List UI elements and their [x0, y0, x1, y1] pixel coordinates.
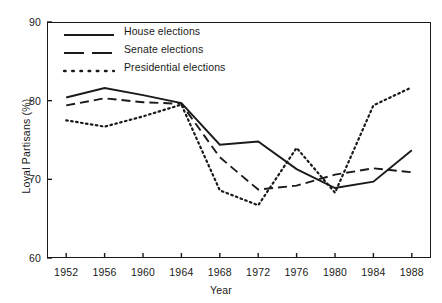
x-tick-label: 1960 [123, 266, 163, 278]
chart-legend: House electionsSenate electionsPresident… [63, 23, 225, 77]
legend-item-presidential-elections: Presidential elections [63, 59, 225, 74]
legend-key-dashed-icon [63, 44, 115, 54]
y-tick-label: 90 [11, 16, 41, 28]
y-axis-label: Loyal Partisans (%) [20, 76, 32, 216]
x-axis-label: Year [0, 284, 442, 296]
legend-label: Senate elections [124, 43, 203, 55]
legend-key-dotted-icon [63, 62, 115, 72]
x-tick-label: 1980 [315, 266, 355, 278]
legend-label: House elections [124, 25, 200, 37]
x-tick-label: 1972 [238, 266, 278, 278]
x-tick-label: 1968 [200, 266, 240, 278]
legend-item-senate-elections: Senate elections [63, 41, 225, 56]
x-tick-label: 1984 [353, 266, 393, 278]
x-tick-label: 1964 [161, 266, 201, 278]
x-tick-label: 1976 [277, 266, 317, 278]
series-line-presidential-elections [66, 87, 412, 205]
x-tick-label: 1956 [85, 266, 125, 278]
data-series-group [66, 87, 412, 205]
x-tick-label: 1988 [392, 266, 432, 278]
legend-item-house-elections: House elections [63, 23, 225, 38]
chart-figure: 60708090 1952195619601964196819721976198… [0, 0, 442, 303]
legend-key-solid-icon [63, 26, 115, 36]
x-tick-label: 1952 [46, 266, 86, 278]
y-tick-label: 60 [11, 252, 41, 264]
legend-label: Presidential elections [124, 61, 225, 73]
